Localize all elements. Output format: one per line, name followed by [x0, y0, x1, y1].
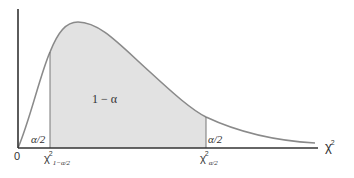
- center-region-label: 1 − α: [92, 92, 117, 107]
- x-axis-label: χ2: [325, 139, 335, 154]
- crit-left-sup: 2: [49, 150, 53, 157]
- crit-right-sup: 2: [205, 150, 209, 157]
- left-tail-label: α/2: [31, 133, 45, 145]
- shaded-region: [50, 22, 206, 148]
- center-region-text: 1 − α: [92, 92, 117, 106]
- right-tail-label: α/2: [208, 133, 222, 145]
- critical-value-right: χ2α/2: [200, 150, 218, 167]
- crit-left-sub: 1−α/2: [53, 159, 70, 167]
- crit-right-sub: α/2: [209, 159, 218, 167]
- origin-label: 0: [14, 150, 20, 162]
- x-axis-sup: 2: [331, 139, 335, 146]
- critical-value-left: χ21−α/2: [44, 150, 70, 167]
